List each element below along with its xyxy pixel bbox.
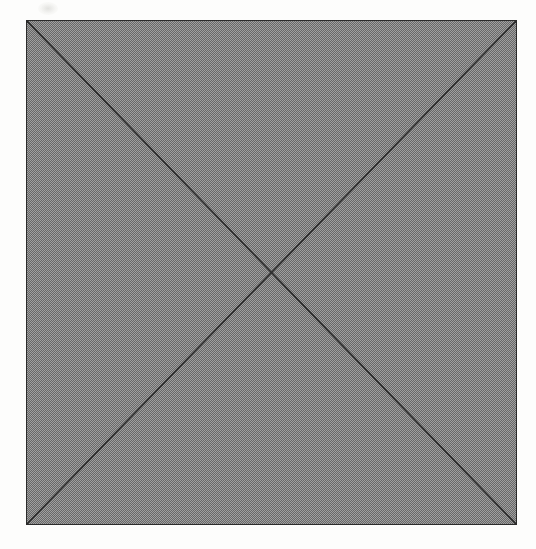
figure-canvas (0, 0, 536, 549)
scan-smudge-artifact (38, 2, 58, 15)
square-diagonals (27, 21, 516, 524)
shaded-square (26, 20, 517, 525)
